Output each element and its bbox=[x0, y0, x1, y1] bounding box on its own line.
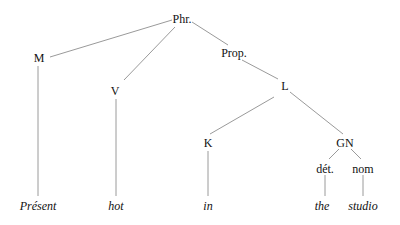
edge-gn-nom bbox=[351, 149, 361, 159]
tree-node-k: K bbox=[204, 137, 213, 149]
edge-prop-l bbox=[242, 60, 278, 79]
tree-node-nom: nom bbox=[352, 163, 373, 175]
leaf-word-present: Présent bbox=[20, 200, 57, 212]
edge-phr-prop bbox=[192, 22, 228, 45]
tree-node-m: M bbox=[34, 52, 45, 64]
tree-node-gn: GN bbox=[336, 137, 353, 149]
tree-node-l: L bbox=[281, 80, 288, 92]
tree-node-prop: Prop. bbox=[221, 47, 247, 59]
tree-node-v: V bbox=[111, 85, 120, 97]
syntax-tree bbox=[0, 0, 400, 225]
leaf-word-studio: studio bbox=[348, 200, 377, 212]
tree-node-det: dét. bbox=[316, 163, 334, 175]
leaf-word-hot: hot bbox=[108, 200, 123, 212]
leaf-word-the: the bbox=[315, 200, 330, 212]
edge-l-gn bbox=[290, 92, 343, 134]
edge-phr-v bbox=[124, 27, 175, 80]
tree-node-phr: Phr. bbox=[172, 13, 191, 25]
edge-gn-det bbox=[329, 149, 339, 159]
leaf-word-in: in bbox=[203, 200, 212, 212]
edge-phr-m bbox=[50, 20, 172, 57]
edge-l-k bbox=[210, 97, 274, 134]
